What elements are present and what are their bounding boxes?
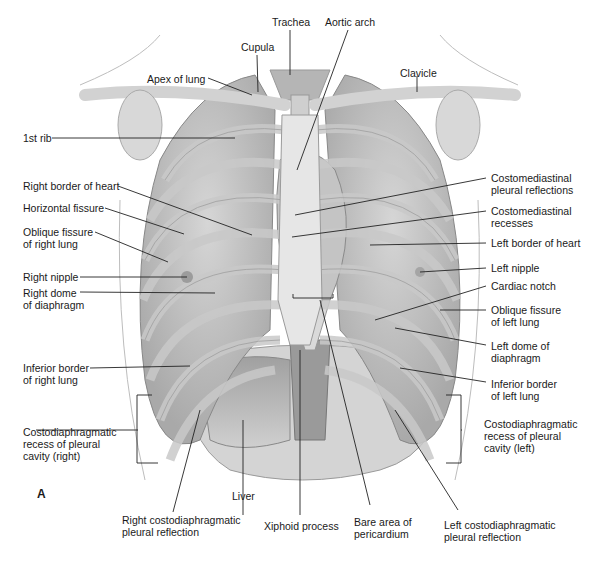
label-costomediastinal-recesses: Costomediastinal recesses: [491, 205, 572, 229]
label-left-costodiaphragmatic-reflection: Left costodiaphragmatic pleural reflecti…: [444, 519, 555, 543]
label-left-dome-diaphragm: Left dome of diaphragm: [491, 340, 549, 364]
label-right-costodiaphragmatic-reflection: Right costodiaphragmatic pleural reflect…: [122, 514, 240, 538]
label-costodiaphragmatic-recess-left: Costodiaphragmatic recess of pleural cav…: [484, 418, 577, 454]
label-right-border-of-heart: Right border of heart: [23, 180, 119, 192]
label-costodiaphragmatic-recess-right: Costodiaphragmatic recess of pleural cav…: [23, 426, 116, 462]
label-costomediastinal-reflections: Costomediastinal pleural reflections: [491, 172, 573, 196]
label-inferior-border-right-lung: Inferior border of right lung: [23, 362, 89, 386]
label-oblique-fissure-right: Oblique fissure of right lung: [23, 226, 93, 250]
label-right-nipple: Right nipple: [23, 271, 78, 283]
label-right-dome-diaphragm: Right dome of diaphragm: [23, 287, 84, 311]
label-trachea: Trachea: [272, 16, 310, 28]
sternum: [278, 115, 322, 345]
label-oblique-fissure-left: Oblique fissure of left lung: [491, 304, 561, 328]
label-clavicle: Clavicle: [400, 67, 437, 79]
label-xiphoid-process: Xiphoid process: [264, 520, 339, 532]
label-left-border-of-heart: Left border of heart: [491, 237, 580, 249]
label-apex-of-lung: Apex of lung: [147, 73, 205, 85]
label-aortic-arch: Aortic arch: [325, 16, 375, 28]
panel-letter: A: [37, 488, 46, 500]
label-1st-rib: 1st rib: [23, 132, 52, 144]
label-left-nipple: Left nipple: [491, 262, 539, 274]
label-cupula: Cupula: [241, 41, 274, 53]
label-cardiac-notch: Cardiac notch: [491, 280, 556, 292]
label-liver: Liver: [232, 490, 255, 502]
label-inferior-border-left-lung: Inferior border of left lung: [491, 378, 557, 402]
label-bare-area-pericardium: Bare area of pericardium: [354, 516, 412, 540]
label-horizontal-fissure: Horizontal fissure: [23, 202, 104, 214]
